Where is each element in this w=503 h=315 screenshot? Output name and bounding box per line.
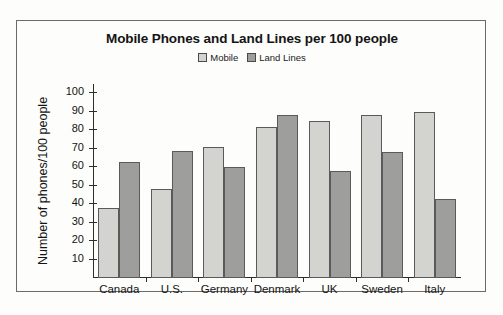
y-tick-label-30: 30 [54,215,84,227]
x-axis-label-denmark: Denmark [251,283,304,295]
chart-legend: Mobile Land Lines [17,52,487,63]
x-axis-label-germany: Germany [198,283,251,295]
y-tick-80: 80 [89,129,97,130]
x-axis-label-uk: UK [303,283,356,295]
bar-germany-mobile [203,147,224,278]
y-tick-label-10: 10 [54,252,84,264]
bar-uk-mobile [309,121,330,278]
bar-italy-mobile [414,112,435,278]
y-tick-label-40: 40 [54,196,84,208]
bar-sweden-mobile [361,115,382,278]
bar-sweden-landlines [382,152,403,278]
y-tick-label-80: 80 [54,122,84,134]
bar-group-sweden [356,115,409,278]
y-tick-label-70: 70 [54,141,84,153]
legend-label-land-lines: Land Lines [259,52,305,63]
page-background: Mobile Phones and Land Lines per 100 peo… [0,0,503,315]
y-tick-90: 90 [89,111,97,112]
bar-group-denmark [251,115,304,278]
legend-entry-land-lines: Land Lines [247,52,305,63]
legend-swatch-mobile [198,53,207,62]
bar-denmark-mobile [256,127,277,279]
y-tick-label-60: 60 [54,159,84,171]
bar-group-germany [198,147,251,278]
y-tick-100: 100 [89,92,97,93]
bar-canada-mobile [98,208,119,278]
y-tick-label-90: 90 [54,104,84,116]
x-axis-label-sweden: Sweden [356,283,409,295]
legend-entry-mobile: Mobile [198,52,238,63]
bar-canada-landlines [119,162,140,278]
bar-us-mobile [151,189,172,278]
y-axis-title-text: Number of phones/100 people [36,97,50,265]
bar-us-landlines [172,151,193,278]
y-tick-70: 70 [89,148,97,149]
legend-swatch-land-lines [247,53,256,62]
bar-group-us [146,151,199,278]
legend-label-mobile: Mobile [210,52,238,63]
bar-uk-landlines [330,171,351,278]
y-axis-title: Number of phones/100 people [35,84,51,278]
chart-figure-frame: Mobile Phones and Land Lines per 100 peo… [16,20,486,292]
x-axis-label-canada: Canada [93,283,146,295]
chart-title: Mobile Phones and Land Lines per 100 peo… [17,31,487,46]
bar-denmark-landlines [277,115,298,278]
x-axis-label-italy: Italy [408,283,461,295]
y-tick-label-50: 50 [54,178,84,190]
y-tick-label-20: 20 [54,233,84,245]
plot-area: 102030405060708090100 [93,84,461,278]
y-tick-label-100: 100 [54,85,84,97]
bar-group-canada [93,162,146,278]
bar-group-uk [303,121,356,278]
x-axis-label-us: U.S. [146,283,199,295]
bar-italy-landlines [435,199,456,278]
bar-group-italy [408,112,461,278]
bar-germany-landlines [224,167,245,278]
